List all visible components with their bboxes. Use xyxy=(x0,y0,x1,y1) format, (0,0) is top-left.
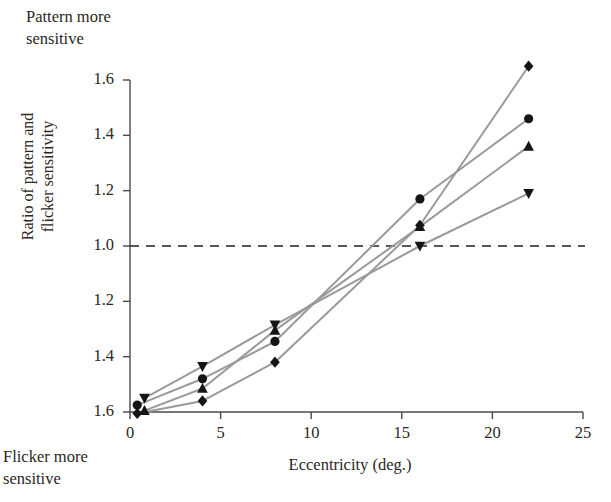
y-tick-label: 1.0 xyxy=(68,235,114,255)
x-tick-label: 0 xyxy=(110,423,150,443)
data-point-circle xyxy=(198,374,207,383)
data-point-circle xyxy=(415,194,424,203)
series-line-circle xyxy=(137,119,528,405)
data-point-diamond xyxy=(198,395,208,406)
y-tick-label: 1.2 xyxy=(68,180,114,200)
y-tick-label: 1.4 xyxy=(68,124,114,144)
x-tick-label: 25 xyxy=(563,423,603,443)
x-tick-label: 15 xyxy=(382,423,422,443)
data-point-down-triangle xyxy=(197,362,208,372)
x-tick-label: 20 xyxy=(472,423,512,443)
x-tick-label: 10 xyxy=(291,423,331,443)
chart-figure: Pattern more sensitive Flicker more sens… xyxy=(0,0,611,502)
y-tick-label: 1.4 xyxy=(68,346,114,366)
y-tick-label: 1.2 xyxy=(68,290,114,310)
data-point-down-triangle xyxy=(523,189,534,199)
y-tick-label: 1.6 xyxy=(68,69,114,89)
data-point-up-triangle xyxy=(523,141,534,151)
data-point-circle xyxy=(524,114,533,123)
y-tick-label: 1.6 xyxy=(68,401,114,421)
data-point-circle xyxy=(270,337,279,346)
data-point-circle xyxy=(133,400,142,409)
x-tick-label: 5 xyxy=(201,423,241,443)
series-line-diamond xyxy=(137,66,528,413)
